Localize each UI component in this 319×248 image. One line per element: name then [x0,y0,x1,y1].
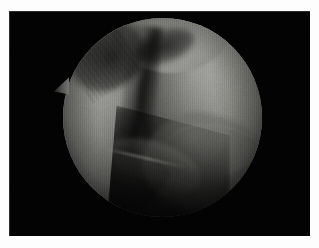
endoscope-field-of-view [63,18,262,217]
rim-spike-icon [54,73,70,95]
photograph-frame [9,11,310,236]
screenshot-root: Arthroscopic view of a knee joint showin… [0,0,319,248]
